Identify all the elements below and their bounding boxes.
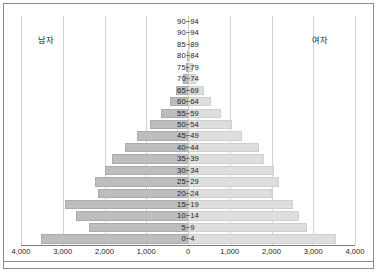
pyramid-row: 80~84 — [21, 50, 355, 61]
pyramid-row: 50~54 — [21, 119, 355, 130]
pyramid-row: 15~19 — [21, 199, 355, 210]
pyramid-row: 20~24 — [21, 188, 355, 199]
pyramid-row: 55~59 — [21, 108, 355, 119]
x-tick-label: 3,000 — [53, 247, 72, 256]
pyramid-row: 45~49 — [21, 130, 355, 141]
pyramid-row: 30~34 — [21, 165, 355, 176]
x-tick-label: 4,000 — [11, 247, 30, 256]
bar-female — [188, 154, 264, 163]
bar-female — [188, 109, 221, 118]
bar-female — [188, 51, 190, 60]
bar-male — [89, 223, 188, 232]
pyramid-row: 0~4 — [21, 233, 355, 244]
gridline — [355, 16, 356, 245]
bar-male — [176, 86, 188, 95]
series-label-female: 여자 — [312, 33, 328, 45]
x-tick-label: 1,000 — [220, 247, 239, 256]
pyramid-row: 70~74 — [21, 73, 355, 84]
age-group-label: 90~94 — [21, 16, 355, 27]
bar-female — [188, 74, 196, 83]
bar-female — [188, 177, 279, 186]
plot-area: 90~9490~9485~8980~8475~7970~7465~6960~64… — [21, 16, 355, 245]
bar-rows: 90~9490~9485~8980~8475~7970~7465~6960~64… — [21, 16, 355, 245]
pyramid-row: 90~94 — [21, 16, 355, 27]
bar-male — [125, 143, 188, 152]
pyramid-row: 75~79 — [21, 62, 355, 73]
pyramid-row: 60~64 — [21, 96, 355, 107]
bar-male — [150, 120, 188, 129]
x-tick-label: 4,000 — [345, 247, 364, 256]
pyramid-row: 40~44 — [21, 142, 355, 153]
bar-male — [105, 166, 188, 175]
bar-female — [188, 97, 211, 106]
series-label-male: 남자 — [38, 33, 54, 45]
bar-male — [112, 154, 188, 163]
pyramid-row: 85~89 — [21, 39, 355, 50]
bar-female — [188, 86, 204, 95]
x-axis-line — [21, 245, 355, 246]
bar-male — [41, 234, 188, 243]
bar-male — [95, 177, 188, 186]
pyramid-row: 65~69 — [21, 85, 355, 96]
x-tick-label: 2,000 — [262, 247, 281, 256]
pyramid-row: 35~39 — [21, 153, 355, 164]
bar-female — [188, 120, 232, 129]
bar-male — [170, 97, 188, 106]
x-tick-label: 2,000 — [95, 247, 114, 256]
bar-male — [98, 189, 188, 198]
bar-male — [161, 109, 188, 118]
bar-female — [188, 211, 299, 220]
age-group-label: 90~94 — [21, 27, 355, 38]
x-axis-tick-labels: 4,0003,0002,0001,00001,0002,0003,0004,00… — [0, 247, 377, 261]
bar-female — [188, 200, 293, 209]
pyramid-row: 5~9 — [21, 222, 355, 233]
bar-female — [188, 131, 242, 140]
figure-bottom-rule — [3, 261, 374, 262]
population-pyramid-figure: 90~9490~9485~8980~8475~7970~7465~6960~64… — [0, 0, 377, 274]
bar-male — [76, 211, 188, 220]
x-tick-label: 3,000 — [304, 247, 323, 256]
bar-male — [137, 131, 188, 140]
x-tick-label: 0 — [186, 247, 190, 256]
bar-female — [188, 143, 259, 152]
x-tick-label: 1,000 — [137, 247, 156, 256]
pyramid-row: 10~14 — [21, 210, 355, 221]
bar-female — [188, 189, 272, 198]
bar-female — [188, 223, 307, 232]
bar-female — [188, 166, 274, 175]
bar-female — [188, 40, 190, 49]
pyramid-row: 90~94 — [21, 27, 355, 38]
bar-male — [65, 200, 188, 209]
pyramid-row: 25~29 — [21, 176, 355, 187]
bar-female — [188, 234, 336, 243]
bar-female — [188, 63, 193, 72]
